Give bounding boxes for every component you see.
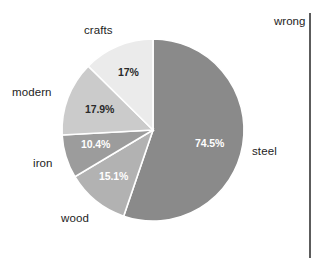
- slice-value-crafts: 17%: [118, 66, 139, 78]
- slice-value-steel: 74.5%: [195, 137, 224, 149]
- slice-value-wood: 15.1%: [99, 170, 128, 182]
- slice-label-iron: iron: [33, 157, 53, 169]
- pie-chart-figure: crafts modern iron wood steel 74.5% 15.1…: [0, 0, 332, 258]
- slice-label-modern: modern: [12, 86, 52, 98]
- slice-value-iron: 10.4%: [81, 138, 110, 150]
- slice-value-modern: 17.9%: [85, 103, 114, 115]
- slice-label-crafts: crafts: [84, 24, 113, 36]
- annotation-wrong: wrong: [274, 15, 305, 27]
- slice-label-wood: wood: [61, 212, 89, 224]
- vertical-divider-rule: [309, 13, 311, 258]
- pie-chart-graphic: [0, 0, 332, 258]
- slice-label-steel: steel: [252, 145, 277, 157]
